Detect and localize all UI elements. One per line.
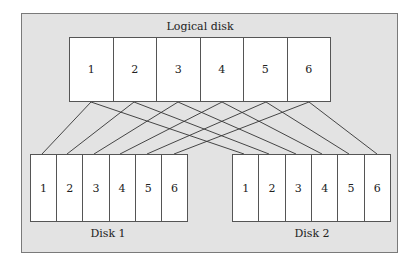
disk-2: 1 2 3 4 5 6 xyxy=(232,154,391,222)
logical-block-3: 3 xyxy=(157,38,201,101)
disk1-block-6: 6 xyxy=(162,155,187,221)
logical-block-1: 1 xyxy=(70,38,114,101)
logical-block-2: 2 xyxy=(114,38,158,101)
logical-disk-label: Logical disk xyxy=(150,20,250,33)
logical-block-4: 4 xyxy=(201,38,245,101)
disk1-block-2: 2 xyxy=(57,155,83,221)
logical-block-6: 6 xyxy=(288,38,331,101)
disk1-block-4: 4 xyxy=(110,155,136,221)
disk1-block-5: 5 xyxy=(136,155,162,221)
disk2-block-3: 3 xyxy=(286,155,312,221)
disk2-block-4: 4 xyxy=(312,155,338,221)
disk1-block-1: 1 xyxy=(31,155,57,221)
disk1-block-3: 3 xyxy=(83,155,109,221)
disk2-block-6: 6 xyxy=(365,155,390,221)
disk-1-label: Disk 1 xyxy=(78,227,138,240)
disk-1: 1 2 3 4 5 6 xyxy=(30,154,188,222)
disk-2-label: Disk 2 xyxy=(282,227,342,240)
disk2-block-2: 2 xyxy=(259,155,285,221)
logical-block-5: 5 xyxy=(244,38,288,101)
disk2-block-1: 1 xyxy=(233,155,259,221)
disk2-block-5: 5 xyxy=(338,155,364,221)
logical-disk: 1 2 3 4 5 6 xyxy=(69,37,331,102)
